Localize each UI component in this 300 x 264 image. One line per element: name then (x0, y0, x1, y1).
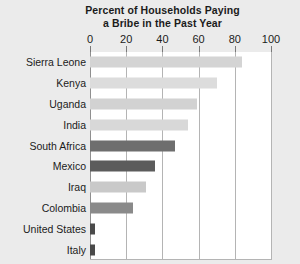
bar-row: Mexico (0, 156, 300, 177)
y-category-label-italy: Italy (67, 244, 86, 256)
bar-colombia (90, 202, 133, 213)
y-category-label-united-states: United States (23, 223, 86, 235)
y-category-label-south-africa: South Africa (29, 140, 86, 152)
y-category-label-uganda: Uganda (49, 98, 86, 110)
x-tick-label-80: 80 (229, 33, 241, 45)
bar-mexico (90, 161, 155, 172)
bar-row: India (0, 114, 300, 135)
x-axis-tick-labels: 020406080100 (0, 33, 300, 47)
chart-title: Percent of Households Paying a Bribe in … (40, 4, 285, 30)
bar-series: Sierra LeoneKenyaUgandaIndiaSouth Africa… (0, 52, 300, 260)
bar-india (90, 119, 188, 130)
x-tick-label-60: 60 (192, 33, 204, 45)
bar-row: Colombia (0, 198, 300, 219)
y-category-label-kenya: Kenya (56, 77, 86, 89)
y-category-label-mexico: Mexico (53, 160, 86, 172)
bar-row: Sierra Leone (0, 52, 300, 73)
bar-iraq (90, 182, 146, 193)
y-category-label-india: India (63, 119, 86, 131)
y-category-label-sierra-leone: Sierra Leone (26, 56, 86, 68)
bar-chart-figure: Percent of Households Paying a Bribe in … (0, 0, 300, 264)
bar-row: South Africa (0, 135, 300, 156)
bar-south-africa (90, 140, 175, 151)
bar-kenya (90, 78, 217, 89)
x-tick-label-20: 20 (120, 33, 132, 45)
x-tick-label-40: 40 (156, 33, 168, 45)
y-category-label-colombia: Colombia (42, 202, 86, 214)
x-axis-line (90, 259, 271, 260)
bar-sierra-leone (90, 57, 242, 68)
bar-row: Italy (0, 239, 300, 260)
bar-row: Uganda (0, 94, 300, 115)
bar-row: Iraq (0, 177, 300, 198)
bar-row: Kenya (0, 73, 300, 94)
x-tick-label-0: 0 (87, 33, 93, 45)
x-tick-label-100: 100 (262, 33, 280, 45)
bar-uganda (90, 98, 197, 109)
bar-united-states (90, 223, 95, 234)
bar-row: United States (0, 218, 300, 239)
y-category-label-iraq: Iraq (68, 181, 86, 193)
chart-title-line-2: a Bribe in the Past Year (40, 17, 285, 30)
chart-title-line-1: Percent of Households Paying (40, 4, 285, 17)
bar-italy (90, 244, 95, 255)
